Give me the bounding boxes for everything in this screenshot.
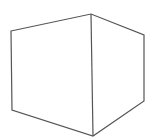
box-diagram bbox=[0, 0, 160, 139]
box-front-edge bbox=[91, 14, 93, 136]
box-outline bbox=[11, 14, 144, 136]
